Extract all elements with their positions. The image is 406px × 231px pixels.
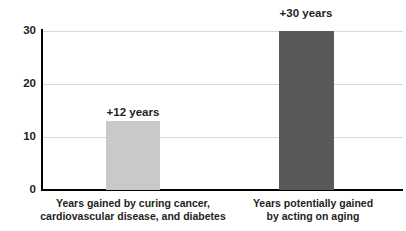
y-tick-label-0: 0	[6, 184, 36, 196]
x-axis-line	[41, 189, 403, 191]
y-axis-line	[41, 29, 43, 191]
gridline-20	[41, 84, 403, 85]
bar-chart: 30 20 10 0 +12 years +30 years Years gai…	[0, 0, 406, 231]
bar-label-1: +12 years	[83, 107, 183, 119]
gridline-10	[41, 137, 403, 138]
category-label-1-line2: cardiovascular disease, and diabetes	[24, 210, 242, 223]
bar-label-2: +30 years	[256, 8, 356, 20]
bar-years-gained-curing-disease	[106, 121, 160, 190]
category-label-1: Years gained by curing cancer, cardiovas…	[24, 197, 242, 223]
category-label-2: Years potentially gained by acting on ag…	[228, 197, 398, 223]
y-tick-label-20: 20	[6, 78, 36, 90]
gridline-30	[41, 31, 403, 32]
category-label-1-line1: Years gained by curing cancer,	[24, 197, 242, 210]
bar-years-gained-acting-on-aging	[279, 31, 334, 190]
y-tick-label-10: 10	[6, 131, 36, 143]
y-tick-label-30: 30	[6, 25, 36, 37]
category-label-2-line2: by acting on aging	[228, 210, 398, 223]
category-label-2-line1: Years potentially gained	[228, 197, 398, 210]
